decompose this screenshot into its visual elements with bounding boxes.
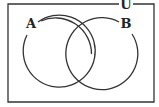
venn-diagram: U A B (0, 0, 159, 107)
set-a-label: A (25, 16, 37, 31)
universe-label: U (120, 0, 132, 12)
set-b-label: B (121, 16, 132, 31)
